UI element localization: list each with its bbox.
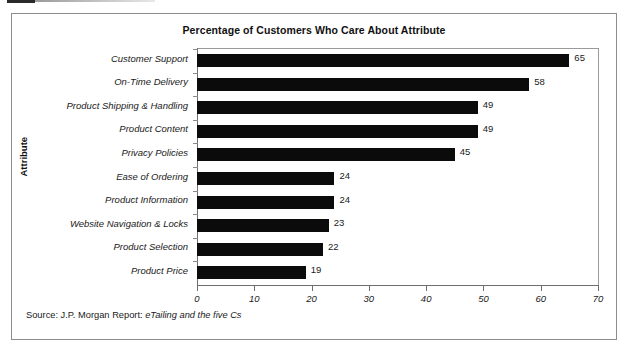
category-label: Ease of Ordering (116, 171, 188, 182)
x-axis-tick-label: 30 (364, 293, 375, 304)
chart-title: Percentage of Customers Who Care About A… (12, 24, 616, 36)
x-axis-tick (598, 286, 599, 291)
bar-value-label: 24 (339, 194, 350, 205)
bar-value-label: 22 (328, 241, 339, 252)
x-axis-tick (483, 286, 484, 291)
scan-artifact-streak (35, 0, 155, 2)
bar (197, 266, 306, 279)
x-axis-tick-label: 20 (306, 293, 317, 304)
y-axis-tick (193, 49, 198, 50)
y-axis-tick (193, 214, 198, 215)
bar-row: 45Privacy Policies (197, 143, 598, 167)
bar (197, 125, 478, 138)
bar-value-label: 65 (574, 52, 585, 63)
source-note: Source: J.P. Morgan Report: eTailing and… (26, 310, 242, 320)
bar-value-label: 45 (460, 146, 471, 157)
y-axis-title: Attribute (18, 159, 29, 177)
bar-value-label: 58 (534, 76, 545, 87)
x-axis-tick-label: 50 (478, 293, 489, 304)
x-axis-tick (541, 286, 542, 291)
category-label: On-Time Delivery (114, 76, 188, 87)
bar (197, 101, 478, 114)
plot-right-rule (598, 48, 599, 285)
source-title-italic: eTailing and the five Cs (145, 310, 241, 320)
bar (197, 172, 334, 185)
bar (197, 78, 529, 91)
category-label: Product Shipping & Handling (67, 100, 188, 111)
bar-row: 49Product Shipping & Handling (197, 96, 598, 120)
x-axis-tick-label: 40 (421, 293, 432, 304)
x-axis-tick-label: 70 (593, 293, 604, 304)
x-axis-tick (369, 286, 370, 291)
bar (197, 196, 334, 209)
x-axis-tick-label: 0 (194, 293, 199, 304)
bar-row: 65Customer Support (197, 49, 598, 73)
y-axis-tick (193, 96, 198, 97)
x-axis-tick (197, 286, 198, 291)
bar (197, 54, 569, 67)
bar-row: 24Product Information (197, 191, 598, 215)
bar-value-label: 49 (483, 123, 494, 134)
category-label: Product Information (105, 194, 188, 205)
bar-row: 19Product Price (197, 261, 598, 285)
category-label: Privacy Policies (121, 147, 188, 158)
y-axis-tick (193, 191, 198, 192)
bar (197, 243, 323, 256)
x-axis-tick-label: 10 (249, 293, 260, 304)
bar-value-label: 24 (339, 170, 350, 181)
x-axis-tick (426, 286, 427, 291)
category-label: Customer Support (111, 53, 188, 64)
bar-row: 24Ease of Ordering (197, 167, 598, 191)
x-axis-tick-label: 60 (535, 293, 546, 304)
bar-row: 23Website Navigation & Locks (197, 214, 598, 238)
x-axis-tick (254, 286, 255, 291)
x-axis-line (197, 285, 599, 286)
category-label: Product Price (131, 265, 188, 276)
y-axis-tick (193, 238, 198, 239)
category-label: Product Content (119, 123, 188, 134)
category-label: Website Navigation & Locks (70, 218, 188, 229)
scan-artifact-smudge (7, 0, 35, 3)
y-axis-tick (193, 143, 198, 144)
y-axis-tick (193, 261, 198, 262)
bar-row: 49Product Content (197, 120, 598, 144)
y-axis-tick (193, 73, 198, 74)
y-axis-tick (193, 120, 198, 121)
bar-row: 58On-Time Delivery (197, 73, 598, 97)
y-axis-tick (193, 167, 198, 168)
bar (197, 148, 455, 161)
chart-figure-frame: Percentage of Customers Who Care About A… (11, 13, 617, 340)
bar-value-label: 19 (311, 264, 322, 275)
bar (197, 219, 329, 232)
x-axis-tick (312, 286, 313, 291)
plot-area: 65Customer Support58On-Time Delivery49Pr… (197, 49, 598, 285)
bar-row: 22Product Selection (197, 238, 598, 262)
source-prefix: Source: J.P. Morgan Report: (26, 310, 145, 320)
bar-value-label: 49 (483, 99, 494, 110)
bar-value-label: 23 (334, 217, 345, 228)
category-label: Product Selection (114, 241, 188, 252)
